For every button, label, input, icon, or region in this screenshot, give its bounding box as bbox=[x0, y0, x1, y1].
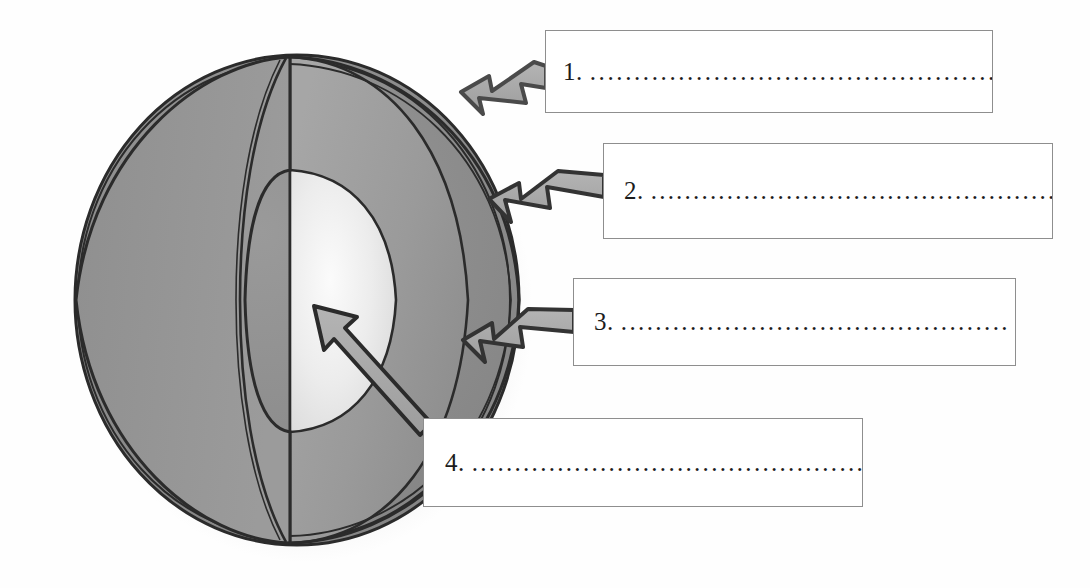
label-1-number: 1. bbox=[563, 58, 583, 86]
label-4-content: 4. .....................................… bbox=[424, 449, 862, 477]
label-1-dotted-line: ........................................… bbox=[590, 58, 992, 86]
label-2-number: 2. bbox=[624, 177, 644, 205]
label-2-dotted-line: ........................................… bbox=[651, 177, 1052, 205]
label-4-dotted-line: ........................................… bbox=[472, 449, 862, 477]
label-box-4[interactable]: 4. .....................................… bbox=[423, 418, 863, 507]
label-3-dotted-line: ........................................… bbox=[621, 308, 1010, 336]
label-box-3[interactable]: 3. .....................................… bbox=[573, 278, 1016, 366]
label-3-content: 3. .....................................… bbox=[574, 308, 1010, 336]
label-box-2[interactable]: 2. .....................................… bbox=[603, 143, 1053, 239]
label-3-number: 3. bbox=[594, 308, 614, 336]
label-2-content: 2. .....................................… bbox=[604, 177, 1052, 205]
label-1-content: 1. .....................................… bbox=[546, 58, 992, 86]
label-4-number: 4. bbox=[445, 449, 465, 477]
diagram-page: 1. .....................................… bbox=[0, 0, 1090, 588]
label-box-1[interactable]: 1. .....................................… bbox=[545, 30, 993, 113]
arrow-2 bbox=[489, 171, 604, 222]
arrow-1 bbox=[461, 62, 546, 114]
